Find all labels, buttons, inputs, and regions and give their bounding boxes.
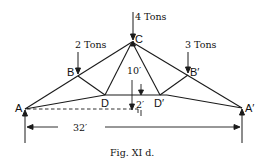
member-d-prime-b-prime [160,75,188,95]
rise-label: 10′ [127,65,141,76]
node-label-b: B [67,66,74,78]
camber-label: 2′ [136,99,144,110]
figure-caption: Fig. XI d. [110,147,154,158]
span-label: 32′ [73,122,87,133]
node-label-b-prime: B′ [190,66,199,78]
node-label-a: A [15,102,23,114]
load-label-b: 2 Tons [75,39,107,50]
node-label-d-prime: D′ [154,97,164,109]
load-label-b-prime: 3 Tons [185,39,217,50]
truss-diagram: A A′ B B′ C D D′ 4 Tons 2 Tons 3 Tons 10… [0,0,267,166]
node-label-a-prime: A′ [245,102,254,114]
node-label-c: C [135,33,143,45]
load-label-c: 4 Tons [135,11,167,22]
node-label-d: D [101,97,109,109]
member-b-d [78,76,105,95]
